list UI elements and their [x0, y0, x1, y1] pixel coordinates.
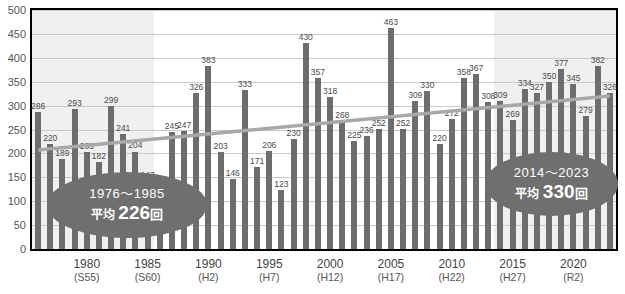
callout-right-prefix: 平均 — [515, 187, 539, 201]
y-axis-tick: 200 — [0, 148, 26, 158]
x-axis-tick-year: 1990 — [195, 257, 222, 271]
y-axis-tick: 300 — [0, 101, 26, 111]
x-axis-tick-year: 2000 — [317, 257, 344, 271]
callout-left-range: 1976〜1985 — [89, 186, 164, 202]
x-axis-tick-era: (H2) — [181, 271, 235, 284]
x-axis-tick-era: (H12) — [303, 271, 357, 284]
x-axis-tick: 1985(S60) — [121, 258, 175, 284]
x-axis-tick-era: (H7) — [242, 271, 296, 284]
callout-left: 1976〜1985 平均 226回 — [47, 172, 207, 238]
callout-right-range: 2014〜2023 — [514, 165, 589, 181]
y-axis-tick: 450 — [0, 29, 26, 39]
y-axis-tick: 0 — [0, 244, 26, 254]
x-axis-tick-year: 1995 — [256, 257, 283, 271]
x-axis-tick: 2005(H17) — [364, 258, 418, 284]
callout-right-unit: 回 — [575, 186, 588, 201]
x-axis-tick: 1980(S55) — [60, 258, 114, 284]
x-axis-tick-year: 2015 — [499, 257, 526, 271]
x-axis-tick: 1995(H7) — [242, 258, 296, 284]
x-axis-tick: 2020(R2) — [546, 258, 600, 284]
x-axis-tick-era: (H22) — [425, 271, 479, 284]
y-axis-tick: 150 — [0, 172, 26, 182]
x-axis-tick-year: 2020 — [560, 257, 587, 271]
x-axis-tick: 2000(H12) — [303, 258, 357, 284]
x-axis-tick-year: 2005 — [378, 257, 405, 271]
y-axis-tick: 100 — [0, 196, 26, 206]
x-axis-tick: 2010(H22) — [425, 258, 479, 284]
x-axis-tick-year: 1980 — [73, 257, 100, 271]
trend-line-segment — [38, 96, 610, 150]
bar-chart: 500450400350300250200150100500 286220189… — [0, 0, 625, 294]
callout-left-prefix: 平均 — [91, 208, 115, 222]
callout-left-average: 平均 226回 — [91, 203, 163, 225]
y-axis-tick: 350 — [0, 77, 26, 87]
x-axis-tick-era: (R2) — [546, 271, 600, 284]
callout-right-average: 平均 330回 — [515, 182, 587, 204]
callout-left-unit: 回 — [150, 207, 163, 222]
callout-right-value: 330 — [543, 181, 575, 202]
x-axis-tick-year: 2010 — [438, 257, 465, 271]
y-axis-tick: 500 — [0, 5, 26, 15]
x-axis-tick-era: (H17) — [364, 271, 418, 284]
y-axis-tick: 400 — [0, 53, 26, 63]
x-axis-tick: 2015(H27) — [486, 258, 540, 284]
y-axis-tick: 250 — [0, 125, 26, 135]
callout-left-value: 226 — [118, 202, 150, 223]
x-axis-tick-era: (S55) — [60, 271, 114, 284]
x-axis-tick-era: (H27) — [486, 271, 540, 284]
x-axis-tick-year: 1985 — [134, 257, 161, 271]
x-axis-tick-era: (S60) — [121, 271, 175, 284]
callout-right: 2014〜2023 平均 330回 — [485, 152, 618, 216]
x-axis-tick: 1990(H2) — [181, 258, 235, 284]
y-axis-tick: 50 — [0, 220, 26, 230]
